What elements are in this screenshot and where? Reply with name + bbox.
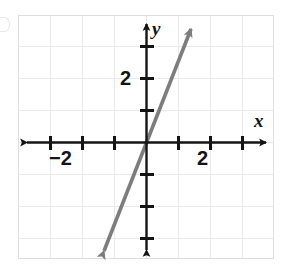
cropped-edge-artifact	[0, 17, 10, 32]
x-axis-tick-label-negative-two: −2	[49, 148, 72, 168]
y-axis-label: y	[152, 19, 160, 38]
x-axis-label: x	[254, 111, 264, 130]
x-axis-tick-label-two: 2	[197, 148, 208, 168]
y-axis-tick-label-two: 2	[120, 68, 131, 88]
coordinate-plane-svg	[0, 0, 283, 274]
graph-figure: −2 2 2 x y	[0, 0, 283, 274]
